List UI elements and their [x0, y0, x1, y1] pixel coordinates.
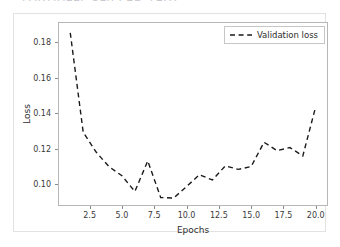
chart-legend: Validation loss — [224, 26, 325, 44]
clipped-header-text: PARTIALLY CLIPPED TEXT — [0, 0, 340, 10]
x-tick-mark — [219, 206, 220, 209]
x-tick-label: 10.0 — [178, 211, 196, 220]
y-tick-mark — [55, 113, 58, 114]
figure-panel: Loss Epochs 2.55.07.510.012.515.017.520.… — [13, 13, 326, 232]
x-tick-mark — [283, 206, 284, 209]
x-tick-mark — [122, 206, 123, 209]
x-tick-mark — [90, 206, 91, 209]
y-tick-mark — [55, 184, 58, 185]
x-tick-label: 15.0 — [242, 211, 260, 220]
x-tick-label: 5.0 — [116, 211, 129, 220]
legend-line-sample — [230, 31, 252, 39]
clipped-header-label: PARTIALLY CLIPPED TEXT — [22, 0, 180, 4]
validation-loss-line — [58, 22, 328, 206]
y-tick-mark — [55, 149, 58, 150]
x-axis-label: Epochs — [177, 225, 209, 235]
y-tick-mark — [55, 42, 58, 43]
y-tick-label: 0.10 — [33, 179, 51, 188]
x-tick-mark — [187, 206, 188, 209]
x-tick-mark — [154, 206, 155, 209]
y-tick-label: 0.14 — [33, 109, 51, 118]
x-tick-label: 17.5 — [275, 211, 293, 220]
y-axis-label: Loss — [22, 104, 32, 124]
y-tick-label: 0.12 — [33, 144, 51, 153]
chart-axes: Loss Epochs 2.55.07.510.012.515.017.520.… — [58, 22, 328, 206]
x-tick-mark — [316, 206, 317, 209]
y-tick-label: 0.18 — [33, 38, 51, 47]
x-tick-label: 2.5 — [83, 211, 96, 220]
y-tick-mark — [55, 78, 58, 79]
y-tick-label: 0.16 — [33, 73, 51, 82]
x-tick-mark — [251, 206, 252, 209]
x-tick-label: 7.5 — [148, 211, 161, 220]
x-tick-label: 20.0 — [307, 211, 325, 220]
x-tick-label: 12.5 — [210, 211, 228, 220]
legend-item-label: Validation loss — [257, 30, 318, 40]
